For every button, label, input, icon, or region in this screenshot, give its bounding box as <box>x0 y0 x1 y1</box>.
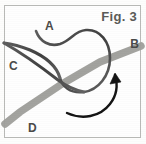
point-label-b: B <box>130 38 139 50</box>
point-label-d: D <box>28 122 37 134</box>
figure-container: Fig. 3 A B C D <box>0 0 146 144</box>
point-label-c: C <box>9 60 18 72</box>
point-label-a: A <box>45 20 54 32</box>
arrowhead-icon <box>110 73 121 84</box>
figure-caption: Fig. 3 <box>101 10 137 23</box>
